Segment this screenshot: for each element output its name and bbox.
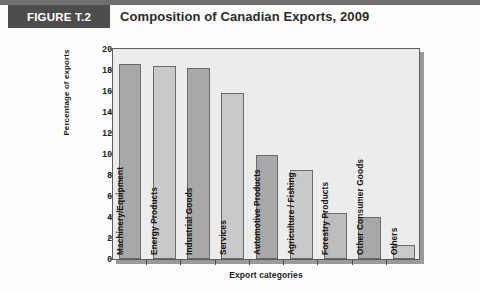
y-axis-tick-label: 0 <box>78 254 112 264</box>
y-axis-tick-label: 16 <box>78 86 112 96</box>
y-axis-tick-label: 2 <box>78 233 112 243</box>
bar-slot: Industrial Goods <box>187 49 210 259</box>
x-axis-tick-mark <box>352 260 353 265</box>
bar-category-label: Industrial Goods <box>184 187 194 255</box>
bar-series: Machinery/EquipmentEnergy ProductsIndust… <box>113 49 419 259</box>
figure-header: FIGURE T.2 Composition of Canadian Expor… <box>0 0 480 34</box>
x-axis-tick-mark <box>386 260 387 265</box>
x-axis-tick-mark <box>283 260 284 265</box>
y-axis-title: Percentage of exports <box>62 23 71 163</box>
figure-number-badge: FIGURE T.2 <box>8 5 110 28</box>
y-axis-tick-label: 6 <box>78 191 112 201</box>
bar-category-label: Agriculture / Fishing <box>286 172 296 255</box>
y-axis-tick-label: 12 <box>78 128 112 138</box>
bar-slot: Others <box>393 49 416 259</box>
bar-category-label: Energy Products <box>149 187 159 255</box>
bar-category-label: Services <box>218 220 228 255</box>
y-axis-tick-label: 8 <box>78 170 112 180</box>
y-axis-tick-label: 18 <box>78 65 112 75</box>
figure-number-label: FIGURE T.2 <box>27 11 91 23</box>
y-axis-tick-label: 4 <box>78 212 112 222</box>
bar-slot: Machinery/Equipment <box>119 49 142 259</box>
bar-slot: Energy Products <box>153 49 176 259</box>
plot-area: Machinery/EquipmentEnergy ProductsIndust… <box>112 48 420 260</box>
x-axis-tick-mark <box>180 260 181 265</box>
bar-slot: Other Consumer Goods <box>358 49 381 259</box>
bar-category-label: Forestry Products <box>320 182 330 255</box>
y-axis-tick-label: 20 <box>78 44 112 54</box>
bar-category-label: Machinery/Equipment <box>115 167 125 255</box>
bar-slot: Services <box>221 49 244 259</box>
bar-slot: Automotive Products <box>256 49 279 259</box>
bar-category-label: Others <box>389 228 399 255</box>
bar-slot: Agriculture / Fishing <box>290 49 313 259</box>
figure-title: Composition of Canadian Exports, 2009 <box>120 5 369 28</box>
bar-category-label: Automotive Products <box>252 169 262 255</box>
bar-slot: Forestry Products <box>324 49 347 259</box>
x-axis-tick-mark <box>215 260 216 265</box>
bar-category-label: Other Consumer Goods <box>355 159 365 255</box>
x-axis-tick-mark <box>249 260 250 265</box>
x-axis-tick-mark <box>317 260 318 265</box>
y-axis-tick-label: 14 <box>78 107 112 117</box>
x-axis-tick-mark <box>146 260 147 265</box>
figure-page: FIGURE T.2 Composition of Canadian Expor… <box>0 0 480 292</box>
x-axis-title: Export categories <box>112 270 420 280</box>
y-axis-tick-label: 10 <box>78 149 112 159</box>
